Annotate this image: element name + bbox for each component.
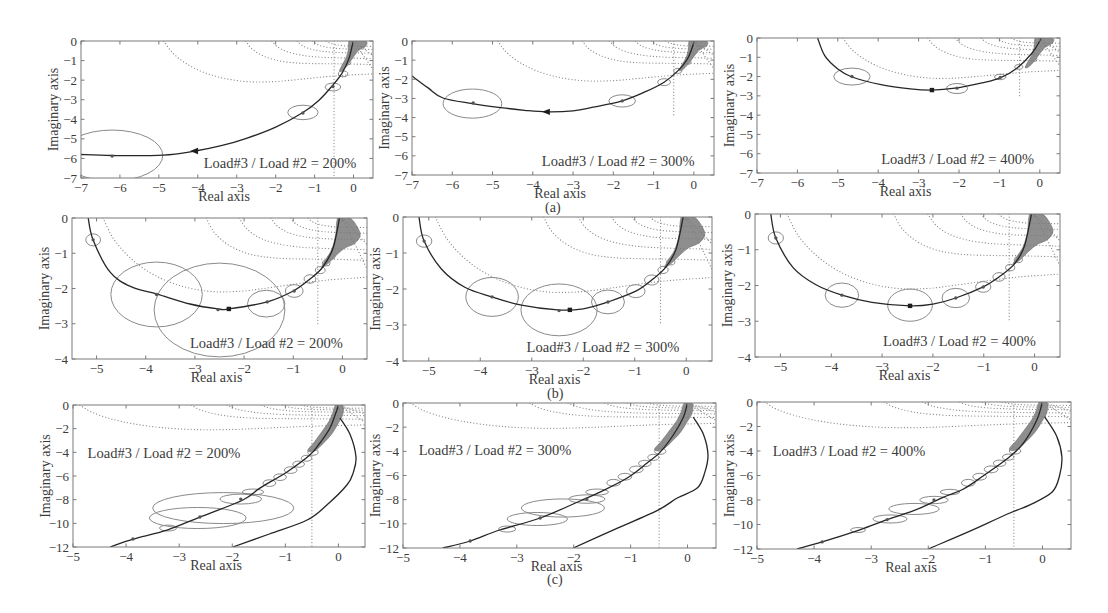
load-ratio-annotation: Load#3 / Load #2 = 300% bbox=[419, 442, 572, 458]
pole-marker bbox=[982, 285, 985, 288]
x-tick-label: 0 bbox=[350, 180, 357, 195]
y-tick-label: −2 bbox=[385, 420, 399, 435]
square-marker bbox=[908, 304, 912, 308]
x-tick-label: −5 bbox=[90, 361, 104, 376]
y-tick-label: −12 bbox=[379, 541, 399, 556]
pole-marker bbox=[198, 515, 201, 518]
y-tick-label: −4 bbox=[63, 112, 77, 127]
y-tick-label: 0 bbox=[62, 211, 69, 226]
damping-grid-arc bbox=[80, 405, 365, 430]
root-locus-curve bbox=[110, 405, 338, 547]
pole-marker bbox=[216, 308, 219, 311]
y-tick-label: −4 bbox=[385, 444, 399, 459]
plot-area bbox=[818, 38, 1060, 96]
square-marker bbox=[227, 307, 231, 311]
plot-frame bbox=[757, 402, 1071, 549]
x-tick-label: −1 bbox=[286, 361, 300, 376]
plot-area bbox=[768, 213, 1060, 321]
y-tick-label: −3 bbox=[54, 316, 68, 331]
y-tick-label: −2 bbox=[739, 69, 753, 84]
x-tick-label: −1 bbox=[977, 359, 991, 374]
x-tick-label: −2 bbox=[269, 180, 283, 195]
caption-b: (b) bbox=[547, 386, 563, 402]
y-tick-label: −6 bbox=[739, 468, 753, 483]
y-tick-label: −2 bbox=[385, 282, 399, 297]
plot-area bbox=[410, 402, 716, 548]
y-tick-label: −8 bbox=[739, 493, 753, 508]
root-locus-curve bbox=[573, 417, 708, 548]
x-tick-label: −1 bbox=[628, 363, 642, 378]
root-locus-curve bbox=[233, 418, 356, 547]
y-tick-label: −2 bbox=[394, 72, 408, 87]
pole-marker bbox=[850, 75, 853, 78]
y-tick-label: −6 bbox=[394, 148, 408, 163]
x-tick-label: 0 bbox=[1037, 175, 1044, 190]
pole-marker bbox=[155, 293, 158, 296]
pole-marker bbox=[620, 99, 623, 102]
x-tick-label: −3 bbox=[510, 550, 524, 565]
pole-marker bbox=[932, 498, 935, 501]
y-axis-label: Imaginary axis bbox=[46, 68, 61, 152]
y-tick-label: −10 bbox=[379, 516, 399, 531]
y-axis-label: Imaginary axis bbox=[722, 64, 737, 148]
x-tick-label: −4 bbox=[453, 550, 467, 565]
direction-arrow-icon bbox=[190, 148, 198, 154]
pole-marker bbox=[606, 300, 609, 303]
x-tick-label: −1 bbox=[308, 180, 322, 195]
pole-marker bbox=[820, 540, 823, 543]
pole-marker bbox=[774, 236, 777, 239]
load-ratio-annotation: Load#3 / Load #2 = 200% bbox=[88, 445, 241, 461]
x-tick-label: −1 bbox=[647, 177, 661, 192]
y-tick-label: −1 bbox=[394, 53, 408, 68]
x-tick-label: 0 bbox=[684, 550, 691, 565]
subplot-b1: −5−4−3−2−100−1−2−3−4Real axisImaginary a… bbox=[37, 211, 368, 386]
root-locus-figure: −7−6−5−4−3−2−100−1−2−3−4−5−6−7Real axisI… bbox=[0, 0, 1108, 613]
pole-marker bbox=[239, 497, 242, 500]
y-tick-label: −4 bbox=[394, 110, 408, 125]
y-tick-label: −5 bbox=[394, 129, 408, 144]
plot-area bbox=[416, 216, 712, 335]
y-tick-label: −8 bbox=[385, 492, 399, 507]
y-tick-label: 0 bbox=[747, 395, 754, 410]
y-tick-label: −3 bbox=[394, 91, 408, 106]
y-axis-label: Imaginary axis bbox=[720, 244, 735, 328]
y-tick-label: −3 bbox=[63, 92, 77, 107]
y-tick-label: −4 bbox=[55, 445, 69, 460]
x-tick-label: −3 bbox=[864, 551, 878, 566]
damping-grid-arc bbox=[164, 41, 373, 82]
x-tick-label: −4 bbox=[473, 363, 487, 378]
subplot-a1: −7−6−5−4−3−2−100−1−2−3−4−5−6−7Real axisI… bbox=[46, 34, 374, 205]
y-axis-label: Imaginary axis bbox=[38, 434, 53, 518]
x-tick-label: −5 bbox=[773, 359, 787, 374]
x-tick-label: −4 bbox=[119, 549, 133, 564]
subplot-a2: −7−6−5−4−3−2−100−1−2−3−4−5−6−7Real axisI… bbox=[377, 34, 715, 202]
y-tick-label: −2 bbox=[739, 419, 753, 434]
y-tick-label: −7 bbox=[63, 171, 77, 186]
root-locus-curve bbox=[443, 403, 688, 548]
y-tick-label: −1 bbox=[63, 53, 77, 68]
x-tick-label: −1 bbox=[978, 551, 992, 566]
y-axis-label: Imaginary axis bbox=[722, 434, 737, 518]
x-tick-label: 0 bbox=[339, 361, 346, 376]
y-tick-label: 0 bbox=[745, 207, 752, 222]
y-tick-label: −6 bbox=[739, 146, 753, 161]
x-axis-label: Real axis bbox=[880, 184, 932, 199]
y-tick-label: −6 bbox=[385, 468, 399, 483]
pole-marker bbox=[999, 76, 1002, 79]
load-ratio-annotation: Load#3 / Load #2 = 200% bbox=[190, 335, 343, 351]
x-tick-label: −6 bbox=[790, 175, 804, 190]
x-tick-label: −6 bbox=[113, 180, 127, 195]
y-tick-label: −1 bbox=[737, 242, 751, 257]
caption-c: (c) bbox=[547, 572, 563, 588]
x-tick-label: 0 bbox=[1031, 359, 1038, 374]
load-ratio-annotation: Load#3 / Load #2 = 400% bbox=[773, 443, 926, 459]
y-tick-label: −4 bbox=[385, 354, 399, 369]
y-tick-label: −4 bbox=[737, 350, 751, 365]
x-tick-label: 0 bbox=[335, 549, 342, 564]
pole-marker bbox=[265, 300, 268, 303]
confidence-ellipse bbox=[889, 503, 939, 514]
pole-marker bbox=[131, 537, 134, 540]
subplot-a3: −7−6−5−4−3−2−100−1−2−3−4−5−6−7Real axisI… bbox=[722, 31, 1061, 200]
x-axis-label: Real axis bbox=[191, 370, 243, 385]
square-marker bbox=[568, 308, 572, 312]
